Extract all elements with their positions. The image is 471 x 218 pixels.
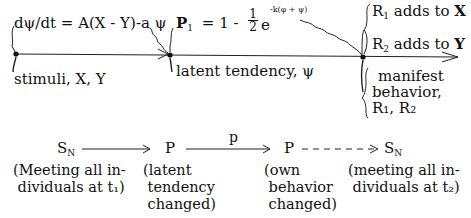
node3-line-1: manifest (372, 68, 444, 84)
p1-e: e (261, 17, 270, 34)
r1-adds-to: adds to (394, 2, 450, 20)
node2-label: latent tendency, ψ (176, 63, 314, 80)
p1-symbol: P (176, 14, 187, 32)
sn-start: SN (57, 140, 75, 162)
sn-end: SN (384, 140, 402, 162)
r2-symbol: R (372, 35, 383, 53)
r2-adds-to: adds to (394, 35, 450, 53)
arrow-label-p: p (229, 129, 238, 146)
r1-target: X (454, 2, 466, 20)
r2-subscript: 2 (383, 44, 389, 54)
r2-target: Y (454, 35, 465, 53)
sn-end-subscript: N (394, 148, 402, 158)
node-latent (167, 52, 172, 57)
r2-line: R2 adds to Y (372, 36, 465, 58)
p-behavior: P (284, 140, 294, 157)
fraction-numerator: 1 (248, 8, 258, 20)
caption-latent-changed: (latent tendency changed) (143, 162, 216, 213)
caption-meeting-t1: (Meeting all in- dividuals at t₁) (13, 162, 126, 196)
fraction-denominator: 2 (248, 20, 258, 33)
node3-line-2: behavior, (372, 84, 444, 100)
sn-start-subscript: N (67, 148, 75, 158)
node3-line-3: R₁, R₂ (372, 100, 444, 116)
p1-middle: = 1 - (202, 14, 239, 32)
node3-label: manifest behavior, R₁, R₂ (372, 68, 444, 116)
p1-fraction: 1 2 (248, 8, 258, 33)
node-manifest (360, 54, 365, 59)
sn-end-symbol: S (384, 139, 394, 157)
r1-symbol: R (372, 2, 383, 20)
caption-meeting-t2: (meeting all in- dividuals at t₂) (348, 162, 460, 196)
caption-behavior-changed: (own behavior changed) (264, 162, 337, 213)
sn-start-symbol: S (57, 139, 67, 157)
p1-subscript: 1 (187, 23, 193, 33)
r1-subscript: 1 (383, 11, 389, 21)
node-stimuli (13, 51, 18, 56)
p1-exponent: -k(φ + ψ) (270, 5, 307, 14)
r1-line: R1 adds to X (372, 3, 466, 25)
equation-p1: P1 = 1 - (176, 15, 239, 37)
p-latent: P (165, 140, 175, 157)
node1-label: stimuli, X, Y (14, 71, 106, 88)
equation-dpsi: dψ/dt = A(X - Y)-a ψ (14, 15, 166, 32)
